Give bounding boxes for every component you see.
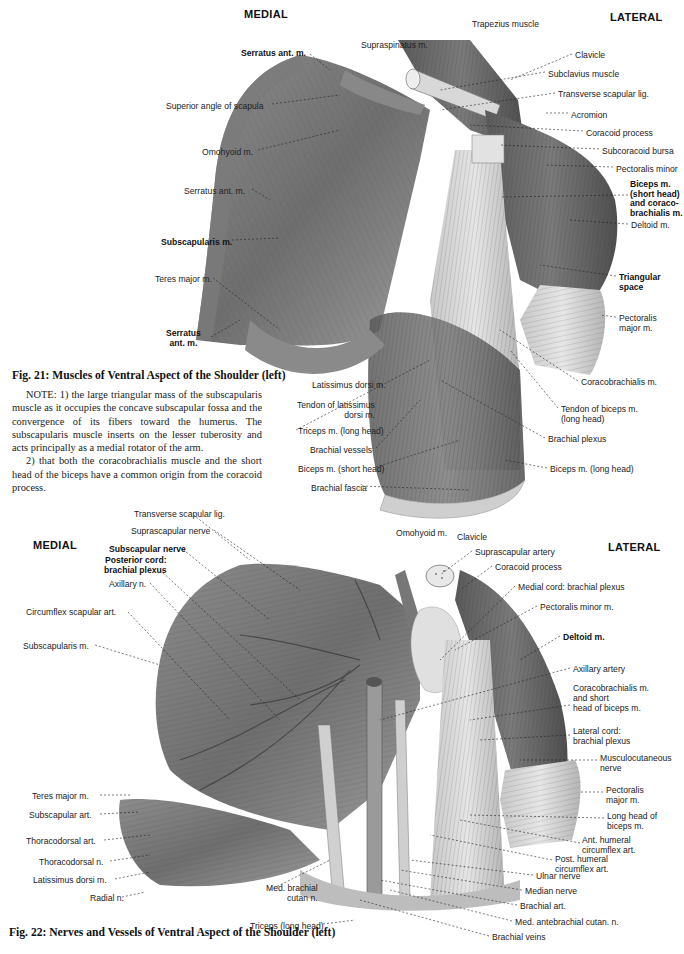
label-ulnar-nerve: Ulnar nerve	[536, 871, 580, 881]
label-latissimus-dorsi-22: Latissimus dorsi m.	[33, 875, 107, 885]
label-medial-cord: Medial cord: brachial plexus	[518, 582, 625, 592]
label-thoracodorsal-n: Thoracodorsal n.	[39, 857, 104, 867]
label-pectoralis-minor-22: Pectoralis minor m.	[540, 602, 614, 612]
label-coracoid-process: Coracoid process	[586, 128, 653, 138]
label-subscapularis-22: Subscapularis m.	[23, 641, 89, 651]
label-serratus-ant-mid: Serratus ant. m.	[184, 186, 245, 196]
note-paragraph-1: NOTE: 1) the large triangular mass of th…	[12, 388, 262, 454]
label-pectoralis-minor: Pectoralis minor	[616, 164, 678, 174]
label-subscapularis: Subscapularis m.	[161, 237, 232, 247]
label-serratus-ant-top: Serratus ant. m.	[241, 48, 306, 58]
label-pectoralis-major: Pectoralis major m.	[619, 313, 657, 333]
label-axillary-n: Axillary n.	[109, 579, 146, 589]
label-biceps-short-head: Biceps m. (short head)	[298, 464, 384, 474]
label-med-antebrachial-cutan: Med. antebrachial cutan. n.	[515, 917, 619, 927]
label-tendon-biceps-long: Tendon of biceps m. (long head)	[561, 404, 638, 424]
label-subscapular-art: Subscapular art.	[29, 810, 92, 820]
label-triceps-long-head: Triceps m. (long head)	[298, 426, 384, 436]
label-med-brachial-cutan: Med. brachial cutan n.	[266, 883, 318, 903]
label-brachial-vessels: Brachial vessels	[310, 445, 372, 455]
label-radial-n: Radial n.	[90, 893, 124, 903]
label-trapezius-muscle: Trapezius muscle	[472, 19, 539, 29]
label-brachial-veins: Brachial veins	[492, 932, 546, 942]
label-serratus-ant-bottom: Serratus ant. m.	[166, 328, 201, 348]
fig22-lateral-heading: LATERAL	[608, 541, 661, 553]
fig21-lateral-heading: LATERAL	[610, 11, 663, 23]
label-deltoid-22: Deltoid m.	[563, 632, 605, 642]
label-subcoracoid-bursa: Subcoracoid bursa	[602, 146, 674, 156]
label-omohyoid: Omohyoid m.	[202, 147, 253, 157]
label-thoracodorsal-art: Thoracodorsal art.	[26, 836, 96, 846]
label-tendon-latissimus: Tendon of latissimus dorsi m.	[297, 400, 375, 420]
label-acromion: Acromion	[571, 110, 607, 120]
figure-21-note: NOTE: 1) the large triangular mass of th…	[12, 388, 262, 494]
label-musculocutaneous-nerve: Musculocutaneous nerve	[600, 753, 672, 773]
label-deltoid: Deltoid m.	[631, 220, 670, 230]
fig21-medial-heading: MEDIAL	[244, 8, 288, 20]
label-transverse-scapular-lig: Transverse scapular lig.	[558, 89, 649, 99]
label-median-nerve: Median nerve	[525, 886, 577, 896]
label-teres-major: Teres major m.	[155, 274, 212, 284]
label-latissimus-dorsi: Latissimus dorsi m.	[312, 380, 386, 390]
label-transverse-scapular-lig-22: Transverse scapular lig.	[134, 509, 225, 519]
figure-22-illustration	[119, 564, 581, 911]
label-brachial-plexus: Brachial plexus	[548, 434, 606, 444]
label-brachial-fascia: Brachial fascia	[311, 483, 367, 493]
label-suprascapular-artery: Suprascapular artery	[475, 547, 555, 557]
label-clavicle-22: Clavicle	[457, 532, 487, 542]
label-supraspinatus: Supraspinatus m.	[361, 40, 428, 50]
label-omohyoid-22: Omohyoid m.	[396, 528, 447, 538]
label-suprascapular-nerve: Suprascapular nerve	[131, 526, 210, 536]
label-posterior-cord: Posterior cord: brachial plexus	[104, 555, 167, 575]
label-brachial-art: Brachial art.	[520, 901, 566, 911]
label-pectoralis-major-22: Pectoralis major m.	[606, 785, 644, 805]
label-subscapular-nerve: Subscapular nerve	[109, 544, 186, 554]
label-coracobrachialis-short-head: Coracobrachialis m. and short head of bi…	[573, 683, 649, 713]
note-paragraph-2: 2) that both the coracobrachialis muscle…	[12, 454, 262, 494]
label-long-head-biceps: Long head of biceps m.	[607, 811, 657, 831]
label-subclavius: Subclavius muscle	[548, 69, 619, 79]
label-biceps-short-coracobrachialis: Biceps m. (short head) and coraco- brach…	[630, 180, 683, 218]
label-circumflex-scapular-art: Circumflex scapular art.	[26, 607, 116, 617]
label-triangular-space: Triangular space	[619, 272, 661, 292]
label-superior-angle-scapula: Superior angle of scapula	[166, 101, 263, 111]
label-axillary-artery: Axillary artery	[573, 664, 625, 674]
label-ant-humeral-circumflex: Ant. humeral circumflex art.	[582, 835, 635, 855]
figure-22-caption: Fig. 22: Nerves and Vessels of Ventral A…	[9, 926, 335, 939]
figure-21-caption: Fig. 21: Muscles of Ventral Aspect of th…	[12, 369, 286, 382]
fig22-medial-heading: MEDIAL	[33, 539, 77, 551]
label-lateral-cord: Lateral cord: brachial plexus	[573, 726, 630, 746]
label-teres-major-22: Teres major m.	[32, 791, 89, 801]
label-biceps-long-head: Biceps m. (long head)	[550, 464, 634, 474]
label-coracoid-process-22: Coracoid process	[495, 562, 562, 572]
label-clavicle: Clavicle	[575, 50, 605, 60]
label-coracobrachialis: Coracobrachialis m.	[581, 377, 657, 387]
